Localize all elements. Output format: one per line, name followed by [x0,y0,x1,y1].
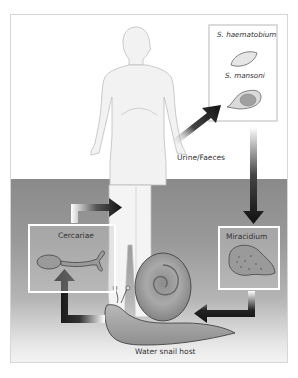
snail-shell [135,253,191,321]
label-s-mansoni: S. mansoni [225,71,265,80]
label-urine-faeces: Urine/Faeces [177,153,225,162]
diagram-art [11,15,288,363]
label-cercariae: Cercariae [58,231,94,240]
arrow-miracidium-to-snail [194,291,255,323]
arrow-human-to-eggs [171,105,221,146]
label-water-snail-host: Water snail host [135,347,196,356]
label-s-haematobium: S. haematobium [217,30,276,39]
diagram-frame: S. haematobium S. mansoni Urine/Faeces C… [10,14,288,363]
label-miracidium: Miracidium [226,232,267,241]
arrow-eggs-to-miracidium [243,127,264,224]
